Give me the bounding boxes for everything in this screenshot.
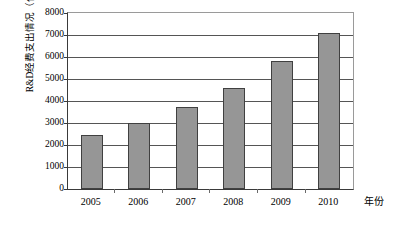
x-axis-tick-label: 2005 — [67, 194, 115, 210]
bar-2009 — [271, 61, 293, 189]
x-axis-tick-label: 2008 — [210, 194, 258, 210]
x-axis-tick-label: 2007 — [162, 194, 210, 210]
plot-area — [67, 12, 354, 190]
y-axis-tick-label: 4000 — [34, 95, 64, 105]
x-axis-tick-labels: 200520062007200820092010 — [67, 194, 352, 210]
y-axis-tick-label: 3000 — [34, 117, 64, 127]
x-axis-tick-label: 2010 — [305, 194, 353, 210]
y-axis-tick-label: 8000 — [34, 7, 64, 17]
bar-series — [68, 13, 353, 189]
bar-2006 — [128, 123, 150, 189]
bar-slot — [258, 13, 306, 189]
bar-slot — [68, 13, 116, 189]
bar-2005 — [81, 135, 103, 189]
y-axis-tick-label: 7000 — [34, 29, 64, 39]
y-axis-tick-label: 0 — [34, 183, 64, 193]
bar-2007 — [176, 107, 198, 189]
y-axis-tick-label: 1000 — [34, 161, 64, 171]
bar-slot — [306, 13, 354, 189]
bar-2008 — [223, 88, 245, 189]
bar-slot — [211, 13, 259, 189]
bar-2010 — [318, 33, 340, 189]
bar-slot — [116, 13, 164, 189]
bar-slot — [163, 13, 211, 189]
y-axis-tick-labels: 800070006000500040003000200010000 — [34, 12, 64, 188]
y-axis-tick-label: 5000 — [34, 73, 64, 83]
y-axis-tick-label: 6000 — [34, 51, 64, 61]
x-axis-title: 年份 — [364, 194, 384, 210]
x-axis-tick-label: 2009 — [257, 194, 305, 210]
y-axis-tick-label: 2000 — [34, 139, 64, 149]
bar-chart: R&D经费支出情况（亿元） 80007000600050004000300020… — [0, 0, 407, 231]
x-axis-tick-label: 2006 — [115, 194, 163, 210]
